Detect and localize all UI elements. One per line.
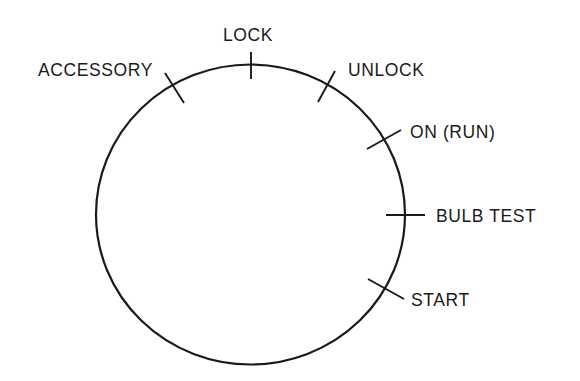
tick-start — [368, 279, 404, 299]
switch-dial-outline — [96, 65, 405, 365]
label-bulb-test: BULB TEST — [436, 206, 536, 226]
label-accessory: ACCESSORY — [38, 60, 153, 80]
label-start: START — [411, 290, 470, 310]
position-ticks — [165, 52, 425, 299]
label-on-run: ON (RUN) — [410, 122, 495, 142]
label-unlock: UNLOCK — [348, 60, 425, 80]
ignition-switch-diagram: ACCESSORYLOCKUNLOCKON (RUN)BULB TESTSTAR… — [0, 0, 580, 381]
label-lock: LOCK — [223, 25, 273, 45]
tick-on-run — [367, 130, 401, 149]
